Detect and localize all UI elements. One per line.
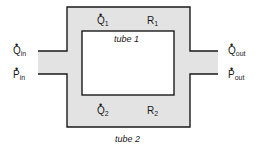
dot-icon: • [99,101,102,110]
subscript: out [235,74,245,81]
subscript: in [21,50,26,57]
dot-icon: • [15,41,18,50]
flow-q1-label: •Q1 [97,16,109,29]
subscript: in [20,74,25,81]
subscript: 1 [154,20,158,27]
tube-2-label: tube 2 [115,134,140,144]
subscript: out [236,50,246,57]
dot-icon: • [230,65,233,74]
pressure-in-label: •Pin [13,70,25,83]
resistance-r2-label: R2 [147,106,158,119]
flow-q2-label: •Q2 [97,106,109,119]
flow-out-label: •Qout [228,46,246,59]
pressure-out-label: •Pout [228,70,244,83]
dot-icon: • [99,11,102,20]
tube-1-label: tube 1 [114,34,139,44]
resistance-r1-label: R1 [147,16,158,29]
dot-icon: • [15,65,18,74]
dot-icon: • [230,41,233,50]
subscript: 1 [105,20,109,27]
flow-in-label: •Qin [13,46,26,59]
parallel-tubes-diagram [0,0,260,153]
subscript: 2 [154,110,158,117]
subscript: 2 [105,110,109,117]
